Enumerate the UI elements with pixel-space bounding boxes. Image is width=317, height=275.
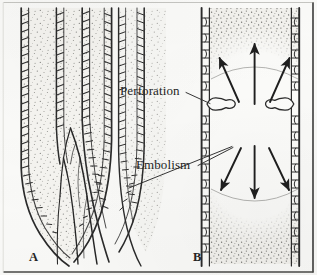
panel-b-group	[202, 8, 300, 266]
perforation-label: Perforation	[120, 84, 180, 97]
perforation-left	[207, 98, 235, 110]
perforation-right	[266, 98, 294, 110]
panel-b-caption: B	[193, 251, 201, 264]
panel-a-group	[21, 8, 166, 266]
embolism-label: Embolism	[136, 158, 190, 171]
figure-container: Perforation Embolism A B	[0, 0, 317, 275]
diagram-canvas	[0, 0, 317, 275]
panel-a-caption: A	[29, 251, 38, 264]
